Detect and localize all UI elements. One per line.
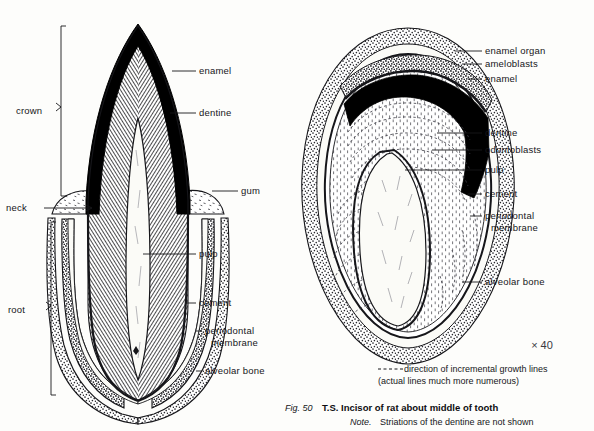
- label-membrane-ls: membrane: [211, 337, 258, 348]
- caption-note-prefix: Note.: [350, 417, 372, 427]
- figure-root: crown root enamel dentine gum neck pulp …: [0, 0, 594, 431]
- legend-line-2: (actual lines much more numerous): [378, 376, 519, 386]
- label-periodontal-ls: periodontal: [205, 325, 254, 336]
- label-pulp-ls: pulp: [199, 248, 218, 259]
- caption-fig-number: Fig. 50: [285, 403, 313, 413]
- label-alveolar-bone-ts: alveolar bone: [485, 276, 545, 287]
- label-membrane-ts: membrane: [491, 222, 538, 233]
- label-gum-ls: gum: [241, 185, 260, 196]
- caption-title: T.S. Incisor of rat about middle of toot…: [322, 402, 498, 413]
- label-dentine-ls: dentine: [199, 107, 232, 118]
- label-enamel-organ-ts: enamel organ: [485, 45, 546, 56]
- label-enamel-ls: enamel: [199, 65, 231, 76]
- label-alveolar-bone-ls: alveolar bone: [205, 365, 265, 376]
- label-odontoblasts-ts: odontoblasts: [485, 144, 541, 155]
- label-pulp-ts: pulp: [485, 164, 504, 175]
- label-neck-ls: neck: [6, 202, 27, 213]
- label-dentine-ts: dentine: [485, 127, 518, 138]
- label-periodontal-ts: periodontal: [485, 210, 534, 221]
- label-cement-ls: cement: [199, 297, 232, 308]
- caption-note-text: Striations of the dentine are not shown: [380, 417, 534, 427]
- legend-line-1: direction of incremental growth lines: [404, 364, 548, 374]
- magnification-label: × 40: [531, 339, 553, 351]
- tooth-figure-svg: crown root enamel dentine gum neck pulp …: [0, 0, 594, 431]
- label-ameloblasts-ts: ameloblasts: [485, 58, 538, 69]
- bracket-label-crown: crown: [16, 105, 42, 116]
- label-cement-ts: cement: [485, 188, 518, 199]
- bracket-label-root: root: [8, 304, 25, 315]
- label-enamel-ts: enamel: [485, 73, 517, 84]
